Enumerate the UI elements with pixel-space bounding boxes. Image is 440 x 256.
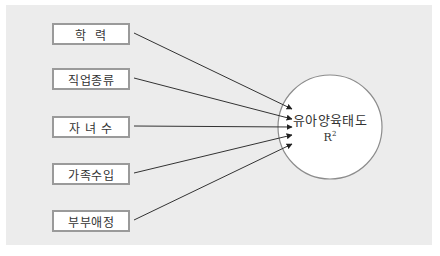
- arrow-affection: [134, 144, 292, 220]
- arrow-education: [134, 33, 292, 109]
- arrow-occupation: [134, 78, 292, 119]
- predictor-box-occupation: 직업종류: [52, 68, 130, 90]
- predictor-label: 자 녀 수: [69, 119, 112, 136]
- outcome-node: 유아양육태도 R2: [278, 75, 382, 179]
- r-squared-label: R2: [324, 130, 337, 144]
- predictor-box-affection: 부부애정: [52, 210, 130, 232]
- predictor-box-income: 가족수입: [52, 163, 130, 185]
- predictor-label: 가족수입: [68, 166, 114, 183]
- r-superscript: 2: [332, 130, 336, 138]
- outcome-label: 유아양육태도: [293, 110, 367, 129]
- predictor-box-children: 자 녀 수: [52, 116, 130, 138]
- arrow-income: [134, 135, 292, 173]
- predictor-label: 학 력: [75, 26, 107, 43]
- predictor-box-education: 학 력: [52, 23, 130, 45]
- predictor-label: 부부애정: [68, 213, 114, 230]
- arrow-children: [134, 126, 292, 127]
- predictor-label: 직업종류: [68, 71, 114, 88]
- r-symbol: R: [324, 131, 332, 144]
